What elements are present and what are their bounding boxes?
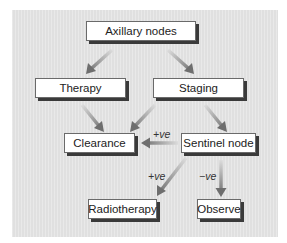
arrow-staging-to-clearance bbox=[130, 105, 155, 132]
node-axillary-nodes: Axillary nodes bbox=[86, 21, 196, 41]
node-radiotherapy: Radiotherapy bbox=[88, 199, 157, 219]
edge-label-sentinel-radiotherapy: +ve bbox=[148, 170, 165, 182]
node-staging: Staging bbox=[153, 78, 244, 98]
arrow-axillary-to-staging bbox=[168, 50, 194, 74]
arrow-therapy-to-clearance bbox=[82, 105, 104, 132]
arrow-staging-to-sentinel bbox=[205, 105, 227, 132]
edge-label-sentinel-clearance: +ve bbox=[153, 128, 170, 140]
arrow-axillary-to-therapy bbox=[86, 50, 112, 74]
edge-label-sentinel-observe: −ve bbox=[199, 170, 216, 182]
arrow-sentinel-to-observe bbox=[216, 160, 227, 197]
node-sentinel-node: Sentinel node bbox=[181, 133, 256, 153]
node-clearance: Clearance bbox=[64, 133, 135, 153]
node-therapy: Therapy bbox=[35, 78, 126, 98]
node-observe: Observe bbox=[197, 199, 241, 219]
